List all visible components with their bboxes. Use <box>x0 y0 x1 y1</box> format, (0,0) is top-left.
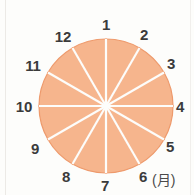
pie-slice-label-12: 12 <box>55 29 71 44</box>
pie-slice-label-8: 8 <box>62 169 70 184</box>
pie-center-hub <box>104 104 109 109</box>
pie-slice-label-5: 5 <box>166 139 174 154</box>
pie-slice-label-6: 6 <box>139 169 147 184</box>
pie-slice-label-7: 7 <box>101 178 109 193</box>
pie-slice-label-2: 2 <box>140 27 148 42</box>
pie-slice-label-4: 4 <box>176 99 184 114</box>
pie-slice-label-10: 10 <box>16 99 32 114</box>
pie-slice-label-9: 9 <box>31 141 39 156</box>
figure-canvas: 123456789101112 (月) <box>0 0 194 195</box>
pie-slice-label-3: 3 <box>167 56 175 71</box>
unit-label: (月) <box>152 173 175 187</box>
pie-slice-label-11: 11 <box>25 58 40 73</box>
pie-slice-label-1: 1 <box>102 17 110 32</box>
